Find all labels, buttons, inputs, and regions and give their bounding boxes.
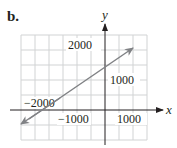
x-axis-label: x xyxy=(165,102,172,117)
chart-plot: x y 2000 1000 −2000 −1000 1000 xyxy=(0,0,177,148)
y-axis-label: y xyxy=(100,7,108,22)
y-tick-1000: 1000 xyxy=(110,73,134,87)
x-tick-neg-1000: −1000 xyxy=(58,112,89,126)
x-tick-neg-2000: −2000 xyxy=(24,96,55,110)
x-tick-1000: 1000 xyxy=(117,112,141,126)
y-tick-2000: 2000 xyxy=(68,38,92,52)
